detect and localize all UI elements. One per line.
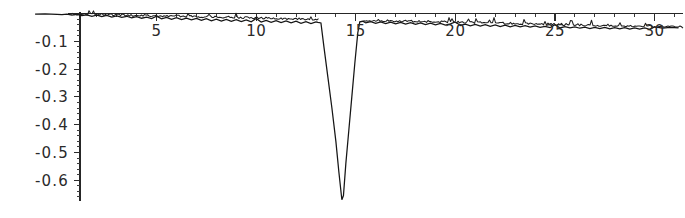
x-tick-label: 5 xyxy=(152,22,162,40)
y-tick-label: -0.2 xyxy=(35,61,69,79)
y-tick-label: -0.4 xyxy=(35,116,69,134)
y-axis-tick-labels: -0.1-0.2-0.3-0.4-0.5-0.6 xyxy=(35,33,69,190)
y-tick-label: -0.5 xyxy=(35,144,69,162)
x-tick-label: 25 xyxy=(545,22,565,40)
x-tick-label: 15 xyxy=(346,22,366,40)
x-tick-label: 20 xyxy=(445,22,465,40)
y-tick-label: -0.1 xyxy=(35,33,69,51)
chart-figure: 51015202530 -0.1-0.2-0.3-0.4-0.5-0.6 xyxy=(0,0,685,218)
x-tick-label: 30 xyxy=(645,22,665,40)
axis-group xyxy=(68,12,683,202)
x-tick-label: 10 xyxy=(246,22,266,40)
y-tick-label: -0.3 xyxy=(35,88,69,106)
series-signal-line xyxy=(35,14,678,200)
y-tick-label: -0.6 xyxy=(35,172,69,190)
y-axis-major-ticks xyxy=(74,41,81,180)
line-chart-plot: 51015202530 -0.1-0.2-0.3-0.4-0.5-0.6 xyxy=(0,0,685,218)
x-axis-tick-labels: 51015202530 xyxy=(152,22,665,40)
